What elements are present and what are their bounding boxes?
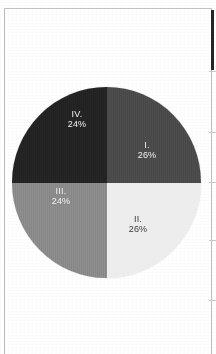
pie-slice-label-iv-percent: 24% — [56, 119, 98, 129]
pie-slice-label-i-name: I. — [126, 140, 168, 150]
pie-slice-label-ii-percent: 26% — [117, 224, 159, 234]
pie-slice-iv — [12, 87, 107, 183]
pie-slice-label-iv: IV. 24% — [56, 109, 98, 130]
pie-slice-label-i-percent: 26% — [126, 150, 168, 160]
pie-slice-label-iii-name: III. — [40, 186, 82, 196]
pie-slice-label-iii: III. 24% — [40, 186, 82, 207]
pie-slice-i — [107, 87, 202, 183]
pie-slice-label-iii-percent: 24% — [40, 196, 82, 206]
pie-slice-label-ii-name: II. — [117, 214, 159, 224]
pie-chart: I. 26% II. 26% III. 24% IV. 24% — [0, 0, 216, 354]
pie-slice-label-i: I. 26% — [126, 140, 168, 161]
pie-circle — [12, 87, 201, 278]
pie-slice-label-iv-name: IV. — [56, 109, 98, 119]
pie-slice-label-ii: II. 26% — [117, 214, 159, 235]
document-page: I. 26% II. 26% III. 24% IV. 24% — [0, 0, 216, 354]
